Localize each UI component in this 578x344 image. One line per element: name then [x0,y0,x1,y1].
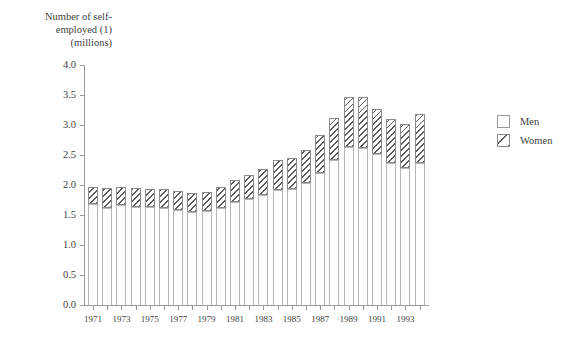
x-axis-tick-label: 1993 [385,314,425,324]
bar-segment-men [258,195,268,305]
y-axis-title: Number of self- employed (1) (millions) [8,10,112,49]
legend-item-women[interactable]: Women [497,131,575,150]
bar-segment-women [131,188,141,207]
bar-segment-men [358,148,368,305]
bar-segment-men [415,163,425,305]
bar-segment-men [400,168,410,305]
bar-segment-women [216,187,226,207]
bar-segment-women [315,135,325,173]
bar-segment-women [329,118,339,160]
bar-segment-women [202,192,212,211]
y-axis-tick-label: 1.5 [42,209,76,220]
legend-item-men[interactable]: Men [497,112,575,131]
bar-segment-women [287,158,297,189]
bar-segment-men [230,202,240,305]
bar-segment-men [202,211,212,305]
y-axis-tick-label: 1.0 [42,239,76,250]
bar-segment-women [400,124,410,167]
y-axis-tick-label: 0.5 [42,269,76,280]
y-axis-tick-label: 3.0 [42,119,76,130]
x-axis-line [84,305,429,306]
bar-segment-women [88,187,98,204]
bar-segment-women [358,97,368,149]
bar-segment-women [159,189,169,208]
bar-segment-men [372,154,382,305]
bar-segment-women [344,97,354,147]
bar-segment-women [145,189,155,208]
bar-segment-women [187,193,197,212]
bar-segment-men [329,160,339,305]
bar-segment-women [102,188,112,208]
y-axis-line [84,65,85,306]
bar-segment-men [287,189,297,305]
y-axis-tick-label: 2.5 [42,149,76,160]
bar-segment-men [88,204,98,305]
bar-segment-women [301,150,311,183]
bar-segment-men [386,163,396,305]
bar-segment-men [159,208,169,305]
bar-segment-women [415,114,425,163]
bar-segment-men [116,205,126,305]
y-axis-tick-label: 0.0 [42,299,76,310]
bar-segment-men [273,190,283,305]
bar-segment-men [344,147,354,305]
bar-segment-women [244,175,254,199]
chart-legend: Men Women [497,112,575,150]
legend-swatch-women-icon [497,134,510,147]
bar-segment-men [216,208,226,305]
bar-segment-women [258,169,268,195]
bar-segment-women [230,180,240,202]
bar-segment-women [116,187,126,205]
bar-segment-women [273,160,283,189]
bar-segment-men [131,207,141,305]
bar-segment-men [315,173,325,305]
bar-segment-men [173,210,183,305]
bar-segment-women [372,109,382,155]
bar-segment-men [145,207,155,305]
legend-swatch-men-icon [497,115,510,128]
chart-container: Number of self- employed (1) (millions) … [0,0,578,344]
bar-segment-men [244,199,254,305]
y-axis-tick-label: 4.0 [42,59,76,70]
y-axis-tick-label: 2.0 [42,179,76,190]
y-axis-tick-label: 3.5 [42,89,76,100]
legend-label-women: Women [520,135,552,147]
legend-label-men: Men [520,116,539,128]
bar-segment-women [386,119,396,163]
bar-segment-men [187,212,197,305]
bar-segment-men [301,183,311,305]
bar-segment-women [173,191,183,210]
bar-segment-men [102,208,112,305]
